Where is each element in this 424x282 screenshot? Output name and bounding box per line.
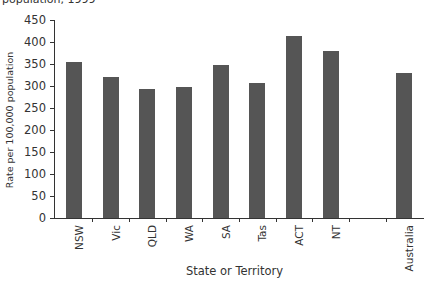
x-tick-label: Vic — [109, 225, 121, 241]
bar-wa — [176, 87, 192, 218]
x-tick-mark — [129, 218, 130, 222]
y-tick-label: 0 — [6, 211, 46, 225]
y-axis-line — [54, 20, 55, 219]
bar-qld — [139, 89, 155, 218]
bar-nsw — [66, 62, 82, 218]
bar-tas — [249, 83, 265, 218]
x-tick-mark — [92, 218, 93, 222]
x-tick-mark — [239, 218, 240, 222]
bar-vic — [103, 77, 119, 218]
x-tick-label: NT — [330, 225, 342, 239]
bar-nt — [323, 51, 339, 218]
x-tick-label: Tas — [256, 225, 268, 242]
x-tick-mark — [276, 218, 277, 222]
x-tick-mark — [202, 218, 203, 222]
y-tick-label: 50 — [6, 189, 46, 203]
y-tick-label: 250 — [6, 101, 46, 115]
bar-act — [286, 36, 302, 218]
y-tick-label: 450 — [6, 13, 46, 27]
x-tick-mark — [312, 218, 313, 222]
y-tick-label: 350 — [6, 57, 46, 71]
y-tick-label: 400 — [6, 35, 46, 49]
x-tick-label: QLD — [146, 225, 158, 247]
x-tick-mark — [386, 218, 387, 222]
y-tick-label: 150 — [6, 145, 46, 159]
x-tick-label: SA — [220, 225, 232, 239]
x-tick-mark — [166, 218, 167, 222]
bar-australia — [396, 73, 412, 218]
chart-title: population, 1999 — [2, 0, 96, 6]
y-tick-label: 300 — [6, 79, 46, 93]
x-tick-mark — [349, 218, 350, 222]
x-axis-title: State or Territory — [0, 264, 424, 278]
x-tick-label: WA — [183, 225, 195, 242]
y-tick-label: 200 — [6, 123, 46, 137]
x-tick-label: NSW — [73, 225, 85, 250]
x-tick-label: ACT — [293, 225, 305, 246]
y-tick-label: 100 — [6, 167, 46, 181]
bar-sa — [213, 65, 229, 218]
